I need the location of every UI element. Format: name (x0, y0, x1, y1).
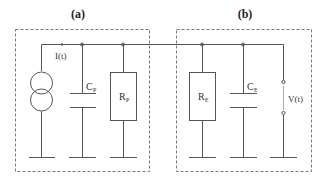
re-label: R (198, 91, 205, 102)
cp-subscript: P (93, 87, 97, 93)
ce-label: C (247, 81, 254, 92)
capacitor-ce (230, 45, 257, 158)
voltage-terminals (270, 80, 297, 157)
current-source-label: I(t) (55, 51, 67, 61)
circuit-diagram: (a) (b) I(t) C P R P R E (0, 0, 325, 178)
terminal-top (282, 80, 285, 83)
rp-label: R (119, 91, 126, 102)
cp-label: C (86, 81, 93, 92)
junction-dot (61, 43, 63, 45)
panel-label-a: (a) (71, 7, 85, 21)
top-wire (42, 45, 284, 81)
re-subscript: E (205, 97, 209, 103)
current-source (29, 72, 55, 158)
voltage-label: V(t) (288, 94, 303, 104)
capacitor-cp (69, 45, 96, 158)
rp-subscript: P (126, 97, 130, 103)
panel-label-b: (b) (238, 7, 253, 21)
terminal-bottom (282, 111, 285, 114)
ce-subscript: E (254, 87, 258, 93)
